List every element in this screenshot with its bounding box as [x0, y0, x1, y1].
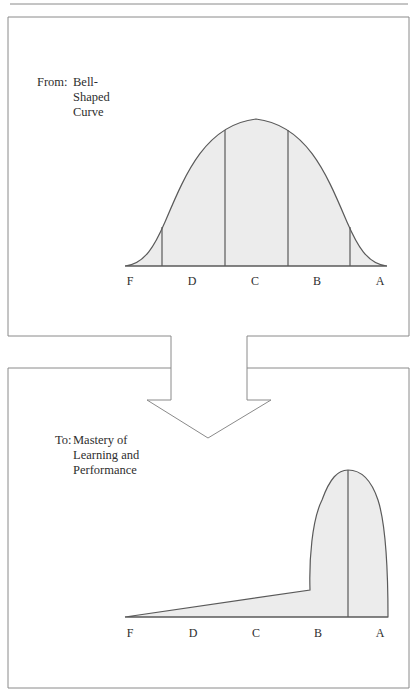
top-grade-label-f: F [127, 274, 134, 289]
top-grade-label-a: A [376, 274, 385, 289]
top-grade-label-d: D [188, 274, 197, 289]
bell-curve [125, 119, 387, 266]
bottom-grade-label-b: B [314, 626, 322, 641]
down-arrow-icon [147, 336, 271, 438]
bottom-grade-label-c: C [252, 626, 260, 641]
bottom-caption-line-3: Performance [73, 463, 137, 478]
top-caption-line-1: Bell- [73, 75, 98, 90]
bottom-caption-line-1: Mastery of [73, 433, 128, 448]
top-grade-label-c: C [251, 274, 259, 289]
top-caption-prefix: From: [37, 75, 68, 90]
bottom-caption-prefix: To: [55, 433, 72, 448]
top-caption-line-3: Curve [73, 105, 104, 120]
bell-to-mastery-diagram: From: Bell- Shaped Curve F D C B A To: M… [0, 0, 418, 690]
bottom-grade-label-a: A [376, 626, 385, 641]
bottom-grade-label-f: F [127, 626, 134, 641]
diagram-canvas [0, 0, 418, 690]
bottom-grade-label-d: D [189, 626, 198, 641]
bottom-caption-line-2: Learning and [73, 448, 139, 463]
top-grade-label-b: B [313, 274, 321, 289]
top-caption-line-2: Shaped [73, 90, 110, 105]
